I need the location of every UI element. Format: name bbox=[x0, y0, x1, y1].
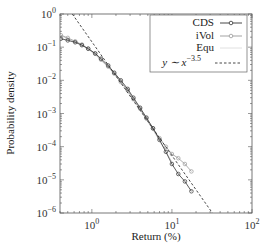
y-tick-label: 100 bbox=[41, 6, 56, 20]
y-tick-label: 10−4 bbox=[36, 139, 56, 153]
legend: CDS iVol Equ y ∼ x−3.5 bbox=[150, 15, 247, 72]
x-tick-label: 101 bbox=[164, 217, 179, 231]
legend-label-cds: CDS bbox=[193, 16, 214, 28]
legend-label-equ: Equ bbox=[196, 41, 214, 53]
y-tick-label: 10−1 bbox=[36, 39, 56, 53]
y-tick-label: 10−5 bbox=[36, 172, 56, 186]
legend-label-ivol: iVol bbox=[196, 29, 214, 41]
x-axis-label: Return (%) bbox=[131, 230, 181, 243]
y-tick-label: 10−3 bbox=[36, 106, 56, 120]
y-tick-label: 10−6 bbox=[36, 205, 56, 219]
x-tick-label: 100 bbox=[84, 217, 99, 231]
y-axis-label: Probability density bbox=[4, 71, 16, 155]
y-tick-label: 10−2 bbox=[36, 72, 56, 86]
x-tick-label: 102 bbox=[245, 217, 260, 231]
chart: 10010110210010−110−210−310−410−510−6 Ret… bbox=[0, 0, 270, 251]
